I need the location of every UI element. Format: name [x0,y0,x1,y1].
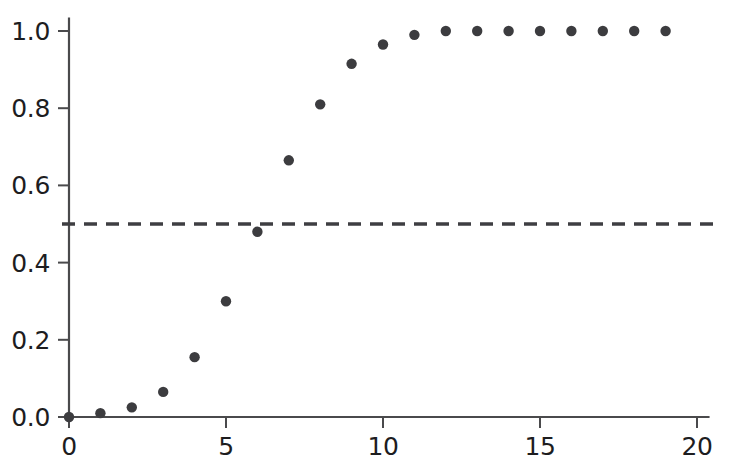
data-point [315,99,325,109]
data-point [409,30,419,40]
data-point [472,26,482,36]
data-point [660,26,670,36]
data-point [378,39,388,49]
y-tick-label: 0.2 [0,325,50,354]
data-point [566,26,576,36]
plot-area [0,0,729,473]
y-tick-label: 0.8 [0,94,50,123]
data-point [284,155,294,165]
data-point [346,59,356,69]
data-point [189,352,199,362]
data-point [503,26,513,36]
data-point [221,296,231,306]
data-point [629,26,639,36]
y-tick-label: 0.6 [0,171,50,200]
data-point [158,387,168,397]
x-tick-label: 0 [61,432,77,461]
data-point [441,26,451,36]
data-point [535,26,545,36]
x-tick-label: 10 [367,432,398,461]
y-tick-label: 1.0 [0,17,50,46]
x-tick-label: 20 [681,432,712,461]
x-tick-label: 5 [218,432,234,461]
scatter-chart: 0.00.20.40.60.81.0 05101520 [0,0,729,473]
x-tick-label: 15 [524,432,555,461]
data-point [252,227,262,237]
data-point [598,26,608,36]
y-tick-label: 0.4 [0,248,50,277]
data-point [95,408,105,418]
data-point [64,412,74,422]
tick-marks [58,31,697,428]
y-tick-label: 0.0 [0,403,50,432]
data-point [127,402,137,412]
